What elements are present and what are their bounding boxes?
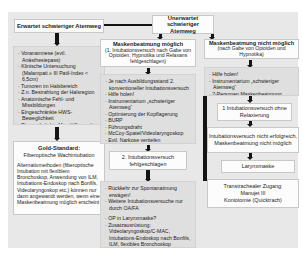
list-item: Je nach Ausbildungsstand 2. konventionel… xyxy=(105,78,192,91)
mask-ventilation-possible-box: Maskenbeatmung möglich (1. Intubationsve… xyxy=(100,39,196,67)
attempt-not-successful-label: Intubationsversuch nicht erfolgreich, Ma… xyxy=(208,133,298,147)
risk-factors-list: Voranamnese (evtl. Anästhesiepass) Klini… xyxy=(13,46,105,125)
list-item: Evtl. Narkose vertiefen xyxy=(105,137,192,144)
single-attempt-label: 1 Intubationsversuch ohne Relaxierung xyxy=(218,105,291,119)
arrow-down-icon xyxy=(249,96,252,100)
list-item: Eingeschränkte Mundöffnung (≤ 3cm) xyxy=(18,122,101,126)
arrow-down-icon xyxy=(249,121,252,124)
horizontal-connector-line xyxy=(104,24,152,26)
laryngeal-mask-label: Larynxmaske xyxy=(242,163,275,171)
arrow-down-icon xyxy=(249,60,252,65)
mask-ventilation-possible-subtitle: (1. Intubationsversuch nach Gabe von Opi… xyxy=(102,48,194,65)
list-item: Weitere Intubationsversuche nur durch OA… xyxy=(105,198,192,211)
transtracheal-access-title: Transtrachealer Zugang: xyxy=(224,183,283,190)
arrow-down-icon xyxy=(147,145,150,149)
transtracheal-access-box: Transtrachealer Zugang: Manujet III Koni… xyxy=(207,179,299,208)
arrow-down-icon xyxy=(159,34,162,37)
laryngeal-mask-box: Larynxmaske xyxy=(221,160,295,173)
arrow-down-icon xyxy=(55,127,59,138)
attempt-not-successful-box: Intubationsversuch nicht erfolgreich, Ma… xyxy=(207,127,299,153)
list-item: Instrumentarium „schwieriger Atemweg“ xyxy=(105,98,192,111)
list-item: Rückkehr zur Spontanatmung erwägen! xyxy=(105,185,192,198)
gold-standard-box: Gold-Standard: Fiberoptische Wachintubat… xyxy=(13,141,105,215)
list-item: 2-Personen Maskenbeatmung xyxy=(209,91,295,97)
arrow-down-icon xyxy=(211,34,214,37)
unexpected-difficult-airway-box: Unerwartet schwieriger Atemweg xyxy=(152,15,214,34)
gold-standard-note: Alternativmethoden (fiberoptische Intuba… xyxy=(14,162,104,206)
expected-difficult-airway-label: Erwartet schwieriger Atemweg xyxy=(17,23,101,30)
list-item: Anatomische Fehl- und Missbildungen xyxy=(18,96,101,109)
list-item: Eingeschränkte HWS-Beweglichkeit xyxy=(18,109,101,122)
second-attempt-failed-box: 2. Intubationsversuch fehlgeschlagen xyxy=(109,151,187,170)
gold-standard-subtitle: Fiberoptische Wachintubation xyxy=(24,152,95,159)
emergency-path-line xyxy=(203,96,207,181)
rescue-measures-list: Rückkehr zur Spontanatmung erwägen! Weit… xyxy=(100,181,196,248)
list-item: Instrumentarium „schwieriger Atemweg“ xyxy=(209,78,295,91)
second-attempt-failed-label: 2. Intubationsversuch fehlgeschlagen xyxy=(110,154,186,168)
mask-ventilation-not-possible-box: Maskenbeatmung nicht möglich (nach Gabe … xyxy=(204,39,299,59)
unexpected-difficult-airway-label: Unerwartet schwieriger Atemweg xyxy=(154,15,212,35)
mask-ventilation-not-possible-subtitle: (nach Gabe von Opioiden und Hypnotika) xyxy=(206,46,297,58)
arrow-down-icon xyxy=(146,170,150,179)
single-attempt-box: 1 Intubationsversuch ohne Relaxierung xyxy=(217,103,292,121)
gold-standard-title: Gold-Standard: xyxy=(38,145,80,152)
list-item: Klinische Untersuchung (Malampati ≥ III … xyxy=(18,63,101,83)
list-item: Zusatzausrüstung: Videolaryngoskop/C-MAC… xyxy=(105,222,192,248)
emergency-measures-list: Hilfe holen! Instrumentarium „schwierige… xyxy=(204,67,299,96)
transtracheal-manujet-label: Manujet III xyxy=(240,190,265,197)
list-item: McCoy-Spatel/Videolaryngoskop xyxy=(105,130,192,137)
arrow-down-icon xyxy=(147,68,150,72)
transtracheal-coniotomy-label: Koniotomie (Quicktrach) xyxy=(224,197,282,204)
expected-difficult-airway-box: Erwartet schwieriger Atemweg xyxy=(14,19,104,33)
arrow-down-icon xyxy=(55,33,59,43)
list-item: Voranamnese (evtl. Anästhesiepass) xyxy=(18,50,101,63)
list-item: Z.n. Bestrahlung der Halsregion xyxy=(18,89,101,96)
arrow-down-icon xyxy=(249,153,252,157)
optimization-measures-list: Je nach Ausbildungsstand 2. konventionel… xyxy=(100,74,196,144)
